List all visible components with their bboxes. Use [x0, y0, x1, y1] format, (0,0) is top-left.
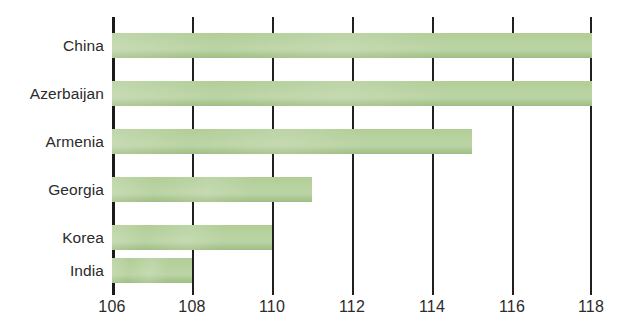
x-tick-label-110: 110 — [259, 296, 285, 318]
x-tick-label-118: 118 — [578, 296, 604, 318]
x-tick-label-112: 112 — [339, 296, 365, 318]
x-tick-label-106: 106 — [98, 296, 125, 318]
category-label-korea: Korea — [0, 225, 104, 250]
bar-china[interactable] — [112, 33, 592, 58]
bar-azerbaijan[interactable] — [112, 81, 592, 106]
bars-layer — [112, 17, 592, 290]
bar-chart: China Azerbaijan Armenia Georgia Korea I… — [0, 0, 621, 332]
x-tick-label-108: 108 — [178, 296, 205, 318]
bar-georgia[interactable] — [112, 177, 312, 202]
category-label-georgia: Georgia — [0, 177, 104, 202]
category-label-china: China — [0, 33, 104, 58]
bar-india[interactable] — [112, 258, 192, 283]
category-label-india: India — [0, 258, 104, 283]
x-tick-label-116: 116 — [499, 296, 525, 318]
bar-armenia[interactable] — [112, 129, 472, 154]
x-tick-label-114: 114 — [419, 296, 445, 318]
category-label-azerbaijan: Azerbaijan — [0, 81, 104, 106]
category-label-armenia: Armenia — [0, 129, 104, 154]
bar-korea[interactable] — [112, 225, 272, 250]
category-axis-labels: China Azerbaijan Armenia Georgia Korea I… — [0, 17, 104, 290]
x-axis-tick-labels: 106 108 110 112 114 116 118 — [112, 296, 592, 322]
